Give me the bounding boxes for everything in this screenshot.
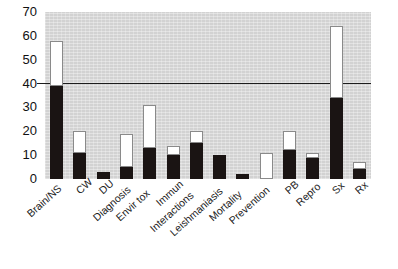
y-tick-label: 70 [23, 5, 37, 18]
y-tick-label: 60 [23, 29, 37, 42]
bar [120, 12, 133, 179]
bar-segment-black [283, 150, 296, 179]
bars-container [45, 12, 371, 179]
bar-segment-white [260, 153, 273, 179]
bar-segment-white [73, 131, 86, 152]
bar-segment-white [120, 134, 133, 167]
bar [353, 12, 366, 179]
bar-segment-black [73, 153, 86, 179]
bar [306, 12, 319, 179]
bar-segment-black [120, 167, 133, 179]
bar [73, 12, 86, 179]
bar-segment-white [283, 131, 296, 150]
bar [143, 12, 156, 179]
bar-segment-white [353, 162, 366, 169]
x-tick-label: Rx [353, 180, 370, 197]
bar-segment-black [330, 98, 343, 179]
bar-segment-white [143, 105, 156, 148]
y-tick-label: 30 [23, 100, 37, 113]
x-tick-label: CW [74, 177, 94, 197]
bar [50, 12, 63, 179]
x-tick-label: Brain/NS [25, 183, 64, 219]
bar-segment-black [353, 169, 366, 179]
y-tick-label: 20 [23, 124, 37, 137]
reference-line [37, 83, 371, 84]
bar-chart: 010203040506070 Brain/NSCWDUDiagnosisEnv… [0, 0, 398, 269]
y-tick-label: 50 [23, 53, 37, 66]
bar-segment-black [143, 148, 156, 179]
bar [97, 12, 110, 179]
bar [260, 12, 273, 179]
bar-segment-black [190, 143, 203, 179]
bar-segment-black [50, 86, 63, 179]
bar-segment-white [330, 26, 343, 98]
bar-segment-black [213, 155, 226, 179]
bar-segment-white [167, 146, 180, 156]
bar [283, 12, 296, 179]
bar [167, 12, 180, 179]
bar [236, 12, 249, 179]
bar-segment-black [306, 158, 319, 179]
bar-segment-white [190, 131, 203, 143]
bar [330, 12, 343, 179]
y-tick-label: 10 [23, 148, 37, 161]
x-axis: Brain/NSCWDUDiagnosisEnvir toxImmunInter… [0, 179, 398, 269]
x-tick-label: Sx [330, 180, 346, 196]
bar-segment-white [50, 41, 63, 86]
bar-segment-black [167, 155, 180, 179]
y-tick-label: 40 [23, 77, 37, 90]
plot-area [45, 12, 371, 179]
y-axis: 010203040506070 [0, 0, 40, 195]
bar [190, 12, 203, 179]
bar [213, 12, 226, 179]
